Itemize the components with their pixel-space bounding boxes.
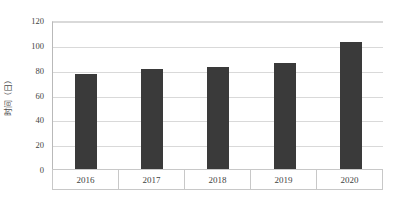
y-axis-tick-label: 80	[36, 66, 45, 75]
bar[interactable]	[274, 63, 296, 170]
y-axis-tick-label: 40	[36, 116, 45, 125]
x-axis-category-table: 20162017201820192020	[52, 170, 383, 190]
x-axis-category-label: 2018	[185, 170, 251, 189]
x-axis-category-label: 2017	[119, 170, 185, 189]
x-axis-category-label: 2020	[317, 170, 382, 189]
y-axis-tick-labels: 020406080100120	[20, 21, 48, 170]
bar-slot	[119, 22, 185, 170]
bar-slot	[53, 22, 119, 170]
y-axis-title: 时间（日）	[0, 52, 18, 140]
bar-slot	[318, 22, 384, 170]
x-axis-category-label: 2019	[251, 170, 317, 189]
bar-chart: 时间（日） 020406080100120 201620172018201920…	[0, 0, 397, 210]
bar[interactable]	[207, 67, 229, 170]
bar[interactable]	[340, 42, 362, 171]
y-axis-tick-label: 60	[36, 91, 45, 100]
bar-slot	[252, 22, 318, 170]
bar[interactable]	[75, 74, 97, 170]
bar[interactable]	[141, 69, 163, 170]
y-axis-tick-label: 0	[40, 166, 44, 175]
bar-slot	[185, 22, 251, 170]
y-axis-tick-label: 100	[31, 42, 44, 51]
y-axis-tick-label: 120	[31, 17, 44, 26]
plot-area	[52, 21, 383, 170]
y-axis-tick-label: 20	[36, 141, 45, 150]
bars-layer	[53, 22, 383, 170]
y-axis-title-text: 时间（日）	[5, 76, 13, 116]
x-axis-category-label: 2016	[53, 170, 119, 189]
